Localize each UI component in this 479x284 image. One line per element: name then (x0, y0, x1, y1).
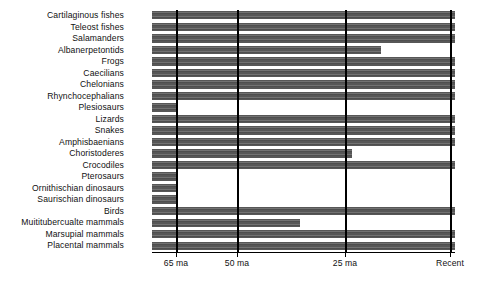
taxon-label: Marsupial mammals (0, 229, 124, 240)
taxon-row: Saurischian dinosaurs (152, 194, 455, 205)
era-rule (176, 10, 178, 252)
taxon-row: Pterosaurs (152, 171, 455, 182)
taxon-label: Frogs (0, 56, 124, 67)
taxon-label: Salamanders (0, 33, 124, 44)
range-bar (152, 34, 455, 42)
taxon-label: Pterosaurs (0, 171, 124, 182)
range-chart: Cartilaginous fishesTeleost fishesSalama… (0, 0, 479, 284)
era-rule (345, 10, 347, 252)
x-axis-tick (345, 252, 346, 257)
range-bar (152, 184, 177, 192)
taxon-row: Albanerpetontids (152, 45, 455, 56)
taxon-label: Ornithischian dinosaurs (0, 183, 124, 194)
taxon-row: Salamanders (152, 33, 455, 44)
taxon-row: Snakes (152, 125, 455, 136)
taxon-row: Rhynchocephalians (152, 91, 455, 102)
range-bar (152, 230, 455, 238)
range-bar (152, 80, 455, 88)
taxon-row: Ornithischian dinosaurs (152, 183, 455, 194)
taxon-label: Plesiosaurs (0, 102, 124, 113)
x-axis-tick (237, 252, 238, 257)
taxon-label: Saurischian dinosaurs (0, 194, 124, 205)
era-rule (450, 10, 452, 252)
taxon-row: Crocodiles (152, 160, 455, 171)
taxon-row: Cartilaginous fishes (152, 10, 455, 21)
x-axis-tick-label: Recent (436, 258, 464, 268)
taxon-row: Birds (152, 206, 455, 217)
range-bar (152, 219, 300, 227)
range-bar (152, 172, 177, 180)
taxon-row: Chelonians (152, 79, 455, 90)
range-bar (152, 195, 177, 203)
x-axis-tick (450, 252, 451, 257)
x-axis-tick-label: 65 ma (164, 258, 188, 268)
range-bar (152, 103, 177, 111)
taxon-label: Muititubercualte mammals (0, 217, 124, 228)
range-bar (152, 23, 455, 31)
taxon-label: Cartilaginous fishes (0, 10, 124, 21)
x-axis-line (152, 252, 455, 253)
x-axis-tick-label: 25 ma (333, 258, 357, 268)
range-bar (152, 207, 455, 215)
taxon-row: Choristoderes (152, 148, 455, 159)
taxon-row: Placental mammals (152, 240, 455, 251)
taxon-row: Muititubercualte mammals (152, 217, 455, 228)
range-bar (152, 161, 455, 169)
taxon-label: Birds (0, 206, 124, 217)
era-rule (237, 10, 239, 252)
taxon-label: Snakes (0, 125, 124, 136)
range-bar (152, 138, 455, 146)
range-bar (152, 126, 455, 134)
taxon-label: Placental mammals (0, 240, 124, 251)
range-bar (152, 57, 455, 65)
taxon-row: Marsupial mammals (152, 229, 455, 240)
taxon-row: Caecilians (152, 68, 455, 79)
x-axis-tick (176, 252, 177, 257)
range-bar (152, 115, 455, 123)
taxon-row: Teleost fishes (152, 22, 455, 33)
range-bar (152, 92, 455, 100)
range-bar (152, 242, 455, 250)
taxon-label: Albanerpetontids (0, 45, 124, 56)
taxon-label: Teleost fishes (0, 22, 124, 33)
x-axis-tick-label: 50 ma (225, 258, 249, 268)
taxon-label: Crocodiles (0, 160, 124, 171)
taxon-label: Chelonians (0, 79, 124, 90)
taxon-row: Frogs (152, 56, 455, 67)
range-bar (152, 11, 455, 19)
taxon-label: Lizards (0, 114, 124, 125)
taxon-label: Rhynchocephalians (0, 91, 124, 102)
range-bar (152, 149, 352, 157)
taxon-label: Amphisbaenians (0, 137, 124, 148)
plot-area: Cartilaginous fishesTeleost fishesSalama… (152, 10, 455, 252)
taxon-row: Amphisbaenians (152, 137, 455, 148)
taxon-row: Lizards (152, 114, 455, 125)
taxon-row: Plesiosaurs (152, 102, 455, 113)
taxon-label: Caecilians (0, 68, 124, 79)
range-bar (152, 69, 455, 77)
taxon-label: Choristoderes (0, 148, 124, 159)
